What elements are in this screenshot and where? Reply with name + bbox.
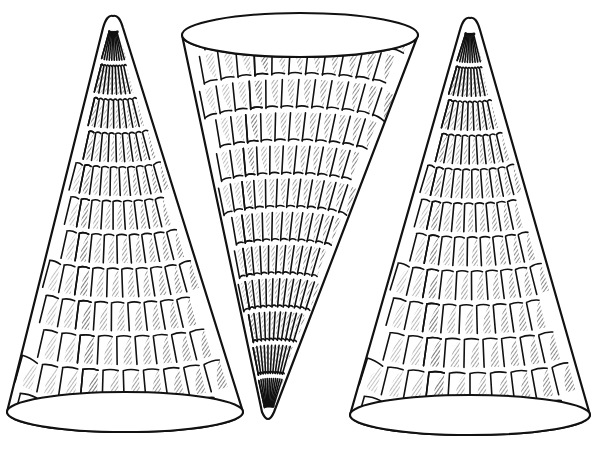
cone-opening-top [182,13,418,57]
cone-opening-bottom [7,392,243,432]
cone-opening-bottom [350,395,590,435]
waffle-cones-illustration [0,0,600,457]
